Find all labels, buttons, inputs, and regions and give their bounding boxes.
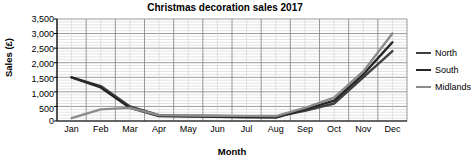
- legend-swatch-south: [416, 69, 431, 71]
- x-tick-label: Aug: [261, 124, 291, 134]
- x-tick-label: Dec: [377, 124, 407, 134]
- legend-swatch-north: [416, 52, 431, 54]
- line-chart: Christmas decoration sales 2017 Sales (£…: [0, 0, 475, 161]
- x-tick-label: Nov: [348, 124, 378, 134]
- x-tick-label: May: [173, 124, 203, 134]
- legend-item-south: South: [416, 63, 474, 77]
- x-tick-label: Sep: [290, 124, 320, 134]
- x-tick-label: Apr: [144, 124, 174, 134]
- x-axis-title: Month: [57, 146, 407, 157]
- legend-label-midlands: Midlands: [435, 82, 471, 92]
- vertical-gridlines: [57, 19, 407, 121]
- x-tick-label: Mar: [115, 124, 145, 134]
- legend-label-north: North: [435, 48, 457, 58]
- legend-label-south: South: [435, 65, 459, 75]
- x-tick-label: Oct: [319, 124, 349, 134]
- plot-area: [0, 0, 475, 161]
- legend-item-midlands: Midlands: [416, 80, 474, 94]
- x-tick-label: Jun: [202, 124, 232, 134]
- chart-legend: North South Midlands: [416, 46, 474, 97]
- x-tick-label: Jul: [232, 124, 262, 134]
- x-tick-label: Jan: [57, 124, 87, 134]
- x-tick-label: Feb: [86, 124, 116, 134]
- legend-swatch-midlands: [416, 86, 431, 88]
- legend-item-north: North: [416, 46, 474, 60]
